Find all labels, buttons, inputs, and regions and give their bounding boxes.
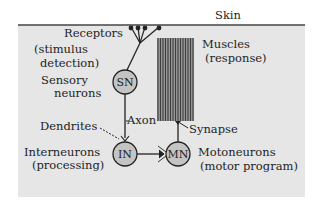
interneuron-label-2: (processing) <box>32 158 104 172</box>
sensory-neuron-abbrev: SN <box>116 76 134 89</box>
muscle-block <box>157 38 194 121</box>
muscles-label: Muscles <box>202 37 250 51</box>
skin-label: Skin <box>215 8 242 22</box>
axon-label: Axon <box>126 113 157 127</box>
motoneuron-label-1: Motoneurons <box>198 145 276 159</box>
interneuron-abbrev: IN <box>118 148 132 161</box>
sensory-label-1: Sensory <box>41 73 88 87</box>
reflex-diagram: Skin Muscles (response) <box>0 0 321 202</box>
muscles-sublabel: (response) <box>205 51 267 65</box>
receptors-sublabel-2: detection) <box>40 56 99 70</box>
dendrites-label: Dendrites <box>40 119 97 133</box>
sensory-label-2: neurons <box>54 86 101 100</box>
motoneuron-label-2: (motor program) <box>200 159 298 173</box>
synapse-label: Synapse <box>189 122 238 136</box>
receptors-label: Receptors <box>64 26 123 40</box>
interneuron-label-1: Interneurons <box>24 145 100 159</box>
receptors-sublabel-1: (stimulus <box>34 42 88 56</box>
motoneuron-abbrev: MN <box>168 148 189 161</box>
